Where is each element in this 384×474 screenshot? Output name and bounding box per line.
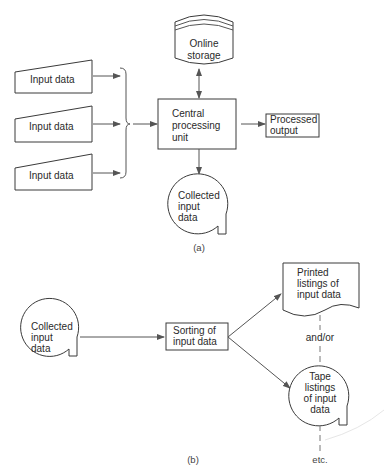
- processed-output-label-1: Processed: [270, 114, 317, 125]
- online-storage-label-2: storage: [187, 50, 221, 61]
- cpu-label-2: processing: [172, 120, 220, 131]
- caption-a: (a): [193, 242, 205, 253]
- collected-label-1: Collected: [178, 190, 220, 201]
- sorting-printed-arrow: [228, 294, 281, 337]
- diagram-a: Online storage Input data Input data Inp…: [15, 15, 319, 253]
- tape-listings-tape: Tape listings of input data: [289, 366, 349, 426]
- input-data-label: Input data: [30, 74, 75, 85]
- sorting-label-2: input data: [173, 336, 217, 347]
- tape-label-3: of input: [304, 393, 337, 404]
- input-data-3: Input data: [15, 154, 92, 190]
- online-storage-disk: Online storage: [175, 15, 233, 64]
- sorting-label-1: Sorting of: [173, 325, 216, 336]
- input-data-label: Input data: [29, 121, 74, 132]
- sorting-tape-arrow: [228, 337, 290, 388]
- collected-label-3: data: [178, 212, 198, 223]
- collected-b-label-1: Collected: [31, 321, 73, 332]
- cpu-label-1: Central: [172, 108, 204, 119]
- caption-b: (b): [187, 454, 199, 465]
- cpu-box: Central processing unit: [158, 99, 236, 149]
- printed-label-2: listings of: [297, 278, 339, 289]
- etc-label: etc.: [312, 454, 327, 465]
- and-or-label: and/or: [306, 332, 335, 343]
- tape-label-1: Tape: [309, 371, 331, 382]
- diagram-b: Collected input data Sorting of input da…: [21, 263, 384, 465]
- collected-b-label-3: data: [31, 343, 51, 354]
- online-storage-label-1: Online: [190, 38, 219, 49]
- processed-output-label-2: output: [270, 125, 298, 136]
- cpu-label-3: unit: [172, 132, 188, 143]
- input-data-1: Input data: [15, 60, 92, 93]
- collected-input-data-tape: Collected input data: [168, 174, 228, 234]
- printed-label-3: input data: [297, 289, 341, 300]
- diagram-canvas: Online storage Input data Input data Inp…: [0, 0, 384, 474]
- printed-listings-document: Printed listings of input data: [283, 263, 359, 316]
- printed-label-1: Printed: [297, 267, 329, 278]
- tape-label-4: data: [310, 404, 330, 415]
- input-data-label: Input data: [29, 170, 74, 181]
- tape-label-2: listings: [305, 382, 336, 393]
- collected-b-label-2: input: [31, 332, 53, 343]
- sorting-box: Sorting of input data: [166, 323, 228, 350]
- collected-label-2: input: [178, 201, 200, 212]
- collected-input-data-tape-b: Collected input data: [21, 298, 79, 356]
- processed-output-box: Processed output: [266, 114, 319, 137]
- brace-icon: [120, 68, 130, 178]
- input-data-2: Input data: [15, 106, 92, 142]
